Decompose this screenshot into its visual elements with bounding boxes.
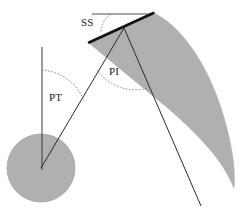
lumbar-spine-band [89,13,234,188]
ss-label: SS [81,17,94,28]
pt-label: PT [49,92,62,103]
pi-label: PI [109,66,119,77]
ss-angle-arc [101,14,111,33]
spinopelvic-diagram: SS PT PI [0,0,247,219]
diagram-canvas [0,0,247,219]
